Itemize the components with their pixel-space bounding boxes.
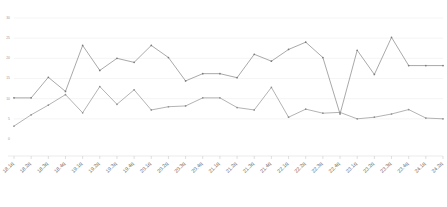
x-tick-label: 21.3q bbox=[242, 160, 256, 174]
data-point bbox=[65, 94, 67, 96]
data-point bbox=[65, 91, 67, 93]
y-tick-label: 10 bbox=[6, 97, 10, 101]
data-point bbox=[133, 89, 135, 91]
data-point bbox=[99, 86, 101, 88]
x-tick-label: 18.2q bbox=[18, 160, 32, 174]
data-point bbox=[30, 114, 32, 116]
data-point bbox=[408, 109, 410, 111]
x-tick-label: 22.4q bbox=[327, 160, 341, 174]
x-tick-label: 20.1q bbox=[139, 160, 153, 174]
y-tick-label: 20 bbox=[6, 56, 10, 60]
x-tick-label: 21.1q bbox=[207, 160, 221, 174]
data-point bbox=[82, 112, 84, 114]
x-tick-label: 20.4q bbox=[190, 160, 204, 174]
x-tick-label: 23.1q bbox=[344, 160, 358, 174]
data-point bbox=[442, 65, 444, 67]
x-tick-label: 19.4q bbox=[121, 160, 135, 174]
data-point bbox=[271, 60, 273, 62]
data-point bbox=[185, 80, 187, 82]
data-point bbox=[288, 116, 290, 118]
data-point bbox=[13, 125, 15, 127]
data-point bbox=[408, 65, 410, 67]
line-chart: 051015202530 18.1q18.2q18.3q18.4q19.1q19… bbox=[0, 0, 447, 207]
data-point bbox=[116, 103, 118, 105]
x-tick-label: 21.4q bbox=[259, 160, 273, 174]
data-point bbox=[374, 116, 376, 118]
y-tick-label: 25 bbox=[6, 36, 10, 40]
data-point bbox=[322, 57, 324, 59]
data-point bbox=[202, 73, 204, 75]
x-tick-label: 19.1q bbox=[70, 160, 84, 174]
data-point bbox=[133, 62, 135, 64]
data-point bbox=[168, 106, 170, 108]
data-point bbox=[391, 37, 393, 39]
x-tick-label: 23.2q bbox=[362, 160, 376, 174]
data-point bbox=[305, 41, 307, 43]
x-tick-label: 21.2q bbox=[224, 160, 238, 174]
data-point bbox=[253, 53, 255, 55]
data-point bbox=[236, 77, 238, 79]
x-tick-label: 18.3q bbox=[36, 160, 50, 174]
data-point bbox=[99, 70, 101, 72]
x-tick-label: 20.3q bbox=[173, 160, 187, 174]
x-tick-label: 19.3q bbox=[104, 160, 118, 174]
data-point bbox=[356, 118, 358, 120]
x-axis-tick-labels: 18.1q18.2q18.3q18.4q19.1q19.2q19.3q19.4q… bbox=[1, 160, 444, 174]
data-point bbox=[253, 109, 255, 111]
data-point bbox=[236, 107, 238, 109]
data-point bbox=[219, 97, 221, 99]
data-point bbox=[322, 112, 324, 114]
gridlines bbox=[14, 18, 443, 119]
data-point bbox=[442, 118, 444, 120]
data-point bbox=[47, 104, 49, 106]
data-point bbox=[391, 113, 393, 115]
data-point bbox=[30, 97, 32, 99]
data-point bbox=[150, 45, 152, 47]
data-point bbox=[116, 57, 118, 59]
data-point bbox=[374, 74, 376, 76]
x-tick-label: 22.3q bbox=[310, 160, 324, 174]
data-point bbox=[339, 113, 341, 115]
y-tick-label: 15 bbox=[6, 76, 10, 80]
x-tick-label: 23.4q bbox=[396, 160, 410, 174]
data-point bbox=[356, 49, 358, 51]
x-tick-label: 24.1q bbox=[413, 160, 427, 174]
data-point bbox=[425, 117, 427, 119]
x-tick-label: 22.1q bbox=[276, 160, 290, 174]
data-point bbox=[339, 112, 341, 114]
data-point bbox=[150, 109, 152, 111]
series-markers bbox=[13, 37, 444, 127]
y-axis-tick-labels: 051015202530 bbox=[6, 16, 10, 141]
data-point bbox=[425, 65, 427, 67]
data-point bbox=[271, 87, 273, 89]
data-point bbox=[13, 97, 15, 99]
y-tick-label: 30 bbox=[6, 16, 10, 20]
x-tick-label: 18.1q bbox=[1, 160, 15, 174]
data-point bbox=[305, 108, 307, 110]
x-tick-label: 18.4q bbox=[53, 160, 67, 174]
y-tick-label: 5 bbox=[8, 117, 10, 121]
data-point bbox=[82, 45, 84, 47]
x-tick-label: 19.2q bbox=[87, 160, 101, 174]
x-axis-tick-marks bbox=[14, 156, 443, 159]
series-line-series-b bbox=[14, 87, 443, 127]
y-tick-label: 0 bbox=[8, 137, 10, 141]
chart-plot-area: 051015202530 18.1q18.2q18.3q18.4q19.1q19… bbox=[0, 0, 447, 207]
data-point bbox=[47, 76, 49, 78]
series-lines bbox=[14, 37, 443, 126]
data-point bbox=[202, 97, 204, 99]
data-point bbox=[288, 49, 290, 51]
x-tick-label: 23.3q bbox=[379, 160, 393, 174]
x-tick-label: 24.2q bbox=[430, 160, 444, 174]
x-tick-label: 22.2q bbox=[293, 160, 307, 174]
data-point bbox=[168, 57, 170, 59]
data-point bbox=[219, 73, 221, 75]
x-tick-label: 20.2q bbox=[156, 160, 170, 174]
data-point bbox=[185, 105, 187, 107]
